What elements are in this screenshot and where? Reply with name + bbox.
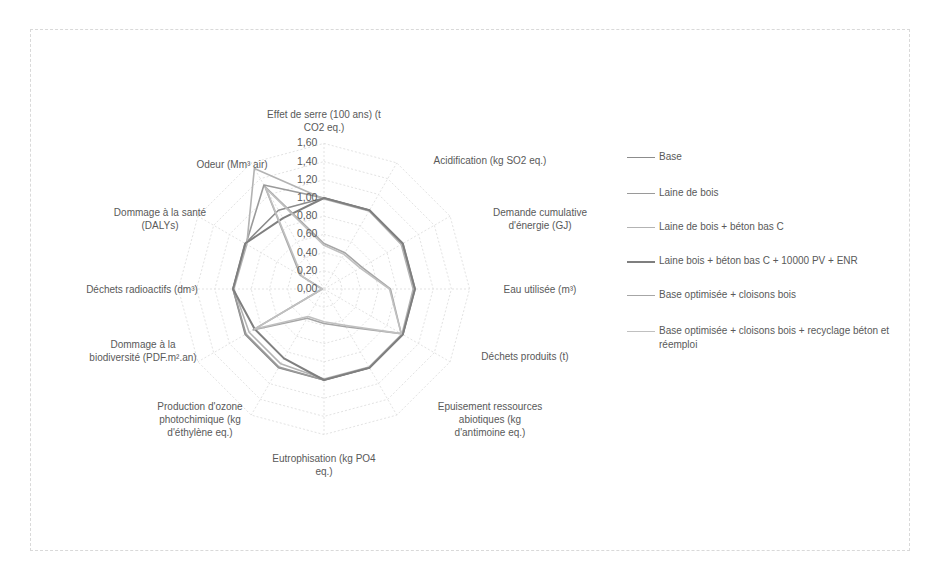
- axis-label-line: d'éthylène eq.): [130, 426, 270, 439]
- axis-label: Effet de serre (100 ans) (tCO2 eq.): [244, 108, 404, 134]
- axis-label: Dommage à la santé(DALYs): [90, 206, 230, 232]
- tick-label: 0,00: [297, 282, 317, 294]
- axis-label-line: Déchets produits (t): [455, 350, 595, 363]
- axis-label-line: d'antimoine eq.): [420, 426, 560, 439]
- axis-label-line: Déchets radioactifs (dm³): [72, 283, 212, 296]
- axis-label: Déchets radioactifs (dm³): [72, 283, 212, 296]
- tick-label: 1,60: [297, 136, 317, 148]
- axis-label-line: biodiversité (PDF.m².an): [73, 351, 213, 364]
- legend-item: Base: [627, 150, 682, 164]
- legend-item: Base optimisée + cloisons bois: [627, 288, 796, 302]
- axis-label-line: Demande cumulative: [470, 206, 610, 219]
- tick-label: 0,20: [297, 264, 317, 276]
- axis-label-line: photochimique (kg: [130, 413, 270, 426]
- axis-label-line: Epuisement ressources: [420, 400, 560, 413]
- axis-label-line: abiotiques (kg: [420, 413, 560, 426]
- legend-label: Base optimisée + cloisons bois: [659, 288, 796, 302]
- tick-label: 0,40: [297, 246, 317, 258]
- axis-label-line: Acidification (kg SO2 eq.): [420, 154, 560, 167]
- legend-line-icon: [627, 227, 655, 228]
- axis-label: Production d'ozonephotochimique (kgd'éth…: [130, 400, 270, 439]
- axis-label-line: (DALYs): [90, 219, 230, 232]
- tick-label: 1,40: [297, 155, 317, 167]
- axis-label-line: Production d'ozone: [130, 400, 270, 413]
- axis-label: Déchets produits (t): [455, 350, 595, 363]
- axis-label: Odeur (Mm³ air): [162, 158, 302, 171]
- axis-label: Eau utilisée (m³): [470, 283, 610, 296]
- axis-label-line: Odeur (Mm³ air): [162, 158, 302, 171]
- legend-label: Laine bois + béton bas C + 10000 PV + EN…: [659, 254, 858, 268]
- legend-line-icon: [627, 295, 655, 296]
- axis-label-line: Effet de serre (100 ans) (t: [244, 108, 404, 121]
- legend-item: Laine de bois: [627, 186, 719, 200]
- legend-line-icon: [627, 331, 655, 332]
- axis-label-line: Dommage à la: [73, 338, 213, 351]
- legend-label: Base: [659, 150, 682, 164]
- legend-label: Base optimisée + cloisons bois + recycla…: [659, 324, 909, 352]
- tick-label: 0,60: [297, 227, 317, 239]
- axis-label-line: Eutrophisation (kg PO4: [244, 452, 404, 465]
- axis-label-line: Eau utilisée (m³): [470, 283, 610, 296]
- series-line: [253, 187, 401, 334]
- legend-line-icon: [627, 261, 655, 263]
- legend-item: Base optimisée + cloisons bois + recycla…: [627, 324, 909, 352]
- axis-label: Eutrophisation (kg PO4eq.): [244, 452, 404, 478]
- legend-label: Laine de bois: [659, 186, 719, 200]
- tick-label: 1,20: [297, 173, 317, 185]
- tick-label: 1,00: [297, 191, 317, 203]
- legend-line-icon: [627, 193, 655, 194]
- axis-label: Demande cumulatived'énergie (GJ): [470, 206, 610, 232]
- legend-label: Laine de bois + béton bas C: [659, 220, 784, 234]
- legend-item: Laine de bois + béton bas C: [627, 220, 784, 234]
- axis-label-line: CO2 eq.): [244, 121, 404, 134]
- axis-label-line: eq.): [244, 465, 404, 478]
- axis-label: Acidification (kg SO2 eq.): [420, 154, 560, 167]
- legend-item: Laine bois + béton bas C + 10000 PV + EN…: [627, 254, 858, 268]
- axis-label: Epuisement ressourcesabiotiques (kgd'ant…: [420, 400, 560, 439]
- axis-label-line: d'énergie (GJ): [470, 219, 610, 232]
- tick-label: 0,80: [297, 209, 317, 221]
- legend-line-icon: [627, 157, 655, 158]
- axis-label-line: Dommage à la santé: [90, 206, 230, 219]
- axis-label: Dommage à labiodiversité (PDF.m².an): [73, 338, 213, 364]
- series-line: [255, 188, 402, 333]
